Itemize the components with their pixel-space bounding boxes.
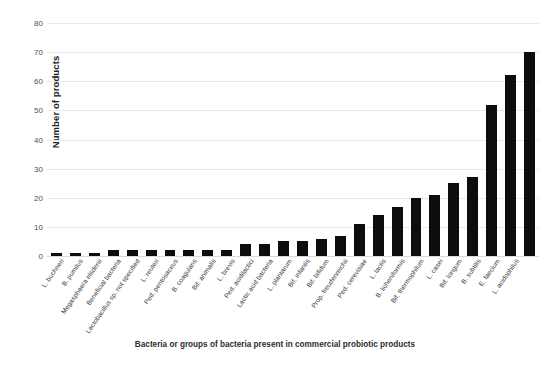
bar: [448, 183, 459, 256]
bar: [335, 236, 346, 256]
y-tick-label: 40: [14, 135, 43, 144]
bar: [467, 177, 478, 256]
bar: [373, 215, 384, 256]
bar: [183, 250, 194, 256]
y-tick-label: 80: [14, 19, 43, 28]
y-tick-label: 60: [14, 77, 43, 86]
bar: [165, 250, 176, 256]
bar: [202, 250, 213, 256]
bar: [108, 250, 119, 256]
y-tick-label: 0: [14, 252, 43, 261]
y-tick-label: 30: [14, 164, 43, 173]
x-axis-labels: L. buchneriB. pumilusMegasphaera elsdeni…: [47, 258, 539, 338]
bar: [392, 207, 403, 257]
bar: [297, 241, 308, 256]
bar: [411, 198, 422, 256]
bar: [221, 250, 232, 256]
y-tick-label: 10: [14, 222, 43, 231]
x-axis-title: Bacteria or groups of bacteria present i…: [0, 340, 550, 349]
bar: [89, 253, 100, 256]
bar: [524, 52, 535, 256]
bar-chart: Number of products 01020304050607080 L. …: [0, 0, 550, 366]
bar: [505, 75, 516, 256]
bar: [51, 253, 62, 256]
bar: [70, 253, 81, 256]
x-axis-line: [47, 256, 539, 257]
bar: [429, 195, 440, 256]
bars-layer: [47, 23, 539, 256]
bar: [240, 244, 251, 256]
bar: [146, 250, 157, 256]
y-tick-label: 70: [14, 48, 43, 57]
y-tick-label: 20: [14, 193, 43, 202]
bar: [127, 250, 138, 256]
bar: [354, 224, 365, 256]
y-tick-label: 50: [14, 106, 43, 115]
bar: [278, 241, 289, 256]
bar: [316, 239, 327, 256]
bar: [486, 105, 497, 256]
bar: [259, 244, 270, 256]
